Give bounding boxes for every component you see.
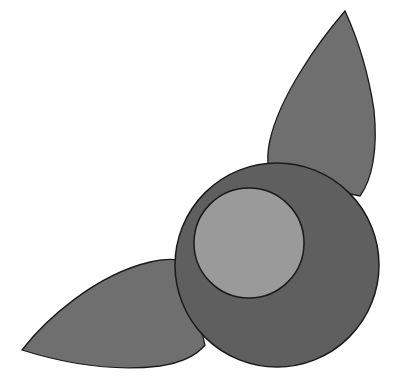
inner-circle-shape bbox=[194, 188, 304, 298]
leaf-circle-illustration bbox=[0, 0, 398, 387]
